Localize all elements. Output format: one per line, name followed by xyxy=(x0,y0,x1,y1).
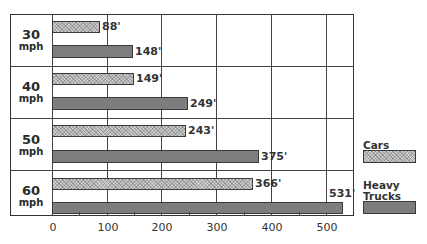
bar-cars-40mph xyxy=(52,73,134,85)
x-tick-label-500: 500 xyxy=(317,221,338,234)
value-label-cars-40mph: 149' xyxy=(136,72,162,85)
value-label-trucks-50mph: 375' xyxy=(261,150,287,163)
row-divider-3 xyxy=(10,170,354,171)
row-divider-2 xyxy=(10,118,354,119)
speed-value: 40 xyxy=(10,80,52,93)
row-label-60mph: 60 mph xyxy=(10,184,52,208)
value-label-trucks-60mph: 531' xyxy=(329,187,355,200)
value-label-trucks-30mph: 148' xyxy=(135,45,161,58)
legend-swatch-cars xyxy=(363,150,416,163)
value-label-cars-50mph: 243' xyxy=(188,124,214,137)
minor-tick-150 xyxy=(134,212,135,216)
bar-cars-50mph xyxy=(52,125,186,137)
minor-tick-250 xyxy=(189,212,190,216)
speed-unit: mph xyxy=(10,147,52,157)
bar-cars-30mph xyxy=(52,21,100,33)
row-divider-1 xyxy=(10,66,354,67)
speed-unit: mph xyxy=(10,198,52,208)
minor-tick-450 xyxy=(299,212,300,216)
speed-unit: mph xyxy=(10,94,52,104)
legend-swatch-trucks xyxy=(363,201,416,214)
row-label-50mph: 50 mph xyxy=(10,133,52,157)
x-tick-label-100: 100 xyxy=(98,221,119,234)
minor-tick-350 xyxy=(244,212,245,216)
speed-value: 30 xyxy=(10,28,52,41)
bar-trucks-40mph xyxy=(52,97,188,110)
x-tick-label-400: 400 xyxy=(262,221,283,234)
speed-value: 60 xyxy=(10,184,52,197)
minor-tick-50 xyxy=(79,212,80,216)
x-tick-label-0: 0 xyxy=(50,221,57,234)
value-label-trucks-40mph: 249' xyxy=(190,97,216,110)
legend-label-trucks: Heavy Trucks xyxy=(363,180,401,202)
row-label-40mph: 40 mph xyxy=(10,80,52,104)
x-tick-label-200: 200 xyxy=(152,221,173,234)
row-label-30mph: 30 mph xyxy=(10,28,52,52)
bar-trucks-50mph xyxy=(52,150,259,163)
bar-cars-60mph xyxy=(52,178,253,190)
speed-unit: mph xyxy=(10,42,52,52)
stopping-distance-chart: 30 mph 40 mph 50 mph 60 mph 88' 148' 149… xyxy=(0,0,427,244)
value-label-cars-60mph: 366' xyxy=(255,177,281,190)
speed-value: 50 xyxy=(10,133,52,146)
x-tick-label-300: 300 xyxy=(207,221,228,234)
value-label-cars-30mph: 88' xyxy=(102,20,121,33)
gridline-500 xyxy=(326,14,327,216)
bar-trucks-30mph xyxy=(52,45,133,58)
